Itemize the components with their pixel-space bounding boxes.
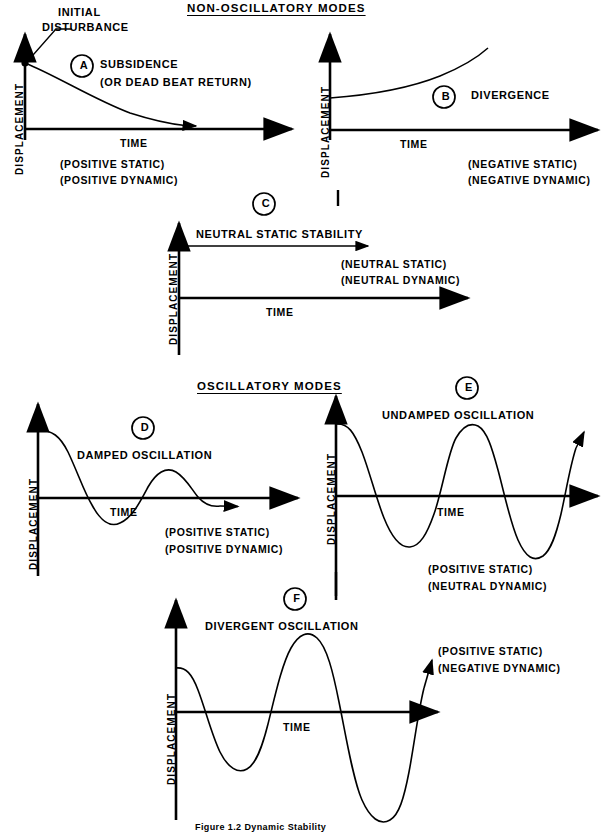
initial-disturbance-label-2: DISTURBANCE bbox=[42, 21, 129, 34]
panel-b-dynamic: (NEGATIVE DYNAMIC) bbox=[468, 174, 591, 186]
panel-a-y-label: DISPLACEMENT bbox=[14, 83, 26, 175]
panel-e-curve bbox=[336, 424, 584, 559]
panel-d-curve bbox=[38, 430, 238, 524]
panel-b-static: (NEGATIVE STATIC) bbox=[468, 158, 577, 170]
panel-b-x-label: TIME bbox=[400, 138, 427, 150]
panel-f-dynamic: (NEGATIVE DYNAMIC) bbox=[438, 662, 561, 674]
panel-c-badge-letter: C bbox=[260, 197, 272, 210]
panel-f-x-label: TIME bbox=[283, 721, 310, 733]
panel-e-y-label: DISPLACEMENT bbox=[326, 453, 338, 545]
header-oscillatory: OSCILLATORY MODES bbox=[197, 380, 342, 394]
panel-e-badge-letter: E bbox=[463, 381, 475, 394]
panel-f-title: DIVERGENT OSCILLATION bbox=[205, 620, 359, 633]
header-non-oscillatory: NON-OSCILLATORY MODES bbox=[187, 2, 366, 16]
panel-f-static: (POSITIVE STATIC) bbox=[438, 645, 543, 657]
panel-e-title: UNDAMPED OSCILLATION bbox=[382, 409, 534, 422]
panel-f-axes bbox=[176, 600, 438, 820]
panel-b-axes bbox=[330, 34, 598, 140]
panel-a-subtitle: (OR DEAD BEAT RETURN) bbox=[100, 76, 252, 89]
panel-a-static: (POSITIVE STATIC) bbox=[60, 158, 165, 170]
panel-c-axes bbox=[179, 223, 468, 355]
panel-b-y-label: DISPLACEMENT bbox=[320, 86, 332, 178]
panel-d-badge-letter: D bbox=[139, 421, 151, 434]
panel-c-y-label: DISPLACEMENT bbox=[168, 253, 180, 345]
panel-d-dynamic: (POSITIVE DYNAMIC) bbox=[165, 543, 283, 555]
panel-e-x-label: TIME bbox=[437, 506, 464, 518]
panel-c-x-label: TIME bbox=[266, 306, 293, 318]
panel-c-title: NEUTRAL STATIC STABILITY bbox=[196, 228, 363, 241]
panel-d-static: (POSITIVE STATIC) bbox=[165, 526, 270, 538]
panel-a-x-label: TIME bbox=[120, 137, 147, 149]
panel-e-dynamic: (NEUTRAL DYNAMIC) bbox=[428, 580, 547, 592]
panel-b-curve bbox=[330, 48, 488, 98]
panel-e-static: (POSITIVE STATIC) bbox=[428, 563, 533, 575]
panel-a-badge-letter: A bbox=[78, 59, 90, 72]
panel-b-badge-letter: B bbox=[440, 90, 452, 103]
panel-f-y-label: DISPLACEMENT bbox=[166, 693, 178, 785]
figure-caption: Figure 1.2 Dynamic Stability bbox=[195, 822, 326, 833]
panel-a-dynamic: (POSITIVE DYNAMIC) bbox=[60, 174, 178, 186]
panel-b-title: DIVERGENCE bbox=[471, 89, 550, 102]
panel-c-dynamic: (NEUTRAL DYNAMIC) bbox=[341, 274, 460, 286]
panel-d-y-label: DISPLACEMENT bbox=[28, 478, 40, 570]
panel-c-static: (NEUTRAL STATIC) bbox=[341, 258, 447, 270]
panel-a-title: SUBSIDENCE bbox=[100, 58, 178, 71]
panel-a-leader-line bbox=[26, 29, 72, 63]
panel-d-x-label: TIME bbox=[110, 506, 137, 518]
initial-disturbance-label-1: INITIAL bbox=[58, 6, 101, 19]
panel-d-title: DAMPED OSCILLATION bbox=[77, 449, 212, 462]
panel-f-badge-letter: F bbox=[291, 592, 303, 605]
